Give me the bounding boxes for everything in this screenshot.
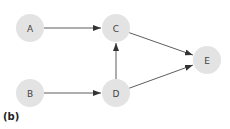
node-c: C xyxy=(102,14,130,42)
node-label: B xyxy=(27,89,33,99)
node-label: D xyxy=(113,89,120,99)
edge-c-to-e xyxy=(129,33,193,55)
diagram-canvas: ABCDE (b) xyxy=(0,0,230,129)
node-e: E xyxy=(193,46,221,74)
node-label: C xyxy=(113,24,119,34)
node-label: E xyxy=(204,56,210,66)
edge-d-to-e xyxy=(129,65,193,88)
directed-graph: ABCDE xyxy=(0,0,230,129)
node-d: D xyxy=(102,79,130,107)
node-a: A xyxy=(16,14,44,42)
figure-caption: (b) xyxy=(3,111,19,122)
node-label: A xyxy=(27,24,34,34)
node-b: B xyxy=(16,79,44,107)
